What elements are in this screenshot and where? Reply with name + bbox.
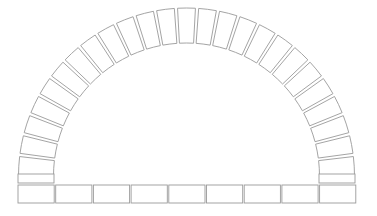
base-brick — [131, 185, 167, 203]
keystone — [178, 8, 196, 43]
voussoir — [157, 8, 177, 45]
base-brick — [93, 185, 129, 203]
base-brick — [56, 185, 92, 203]
arch-voussoirs — [19, 8, 355, 176]
base-brick — [244, 185, 280, 203]
base-brick — [320, 185, 356, 203]
voussoir — [19, 157, 55, 176]
voussoir — [319, 157, 355, 176]
base-row — [18, 185, 356, 203]
voussoir — [196, 8, 216, 45]
diagram-canvas: Semicircular brick arch — [0, 0, 377, 216]
base-brick — [207, 185, 243, 203]
spring-brick-left — [18, 174, 54, 183]
base-brick — [18, 185, 54, 203]
spring-course — [18, 174, 355, 183]
base-brick — [282, 185, 318, 203]
base-brick — [169, 185, 205, 203]
brick-arch-diagram — [0, 0, 377, 216]
spring-brick-right — [319, 174, 355, 183]
